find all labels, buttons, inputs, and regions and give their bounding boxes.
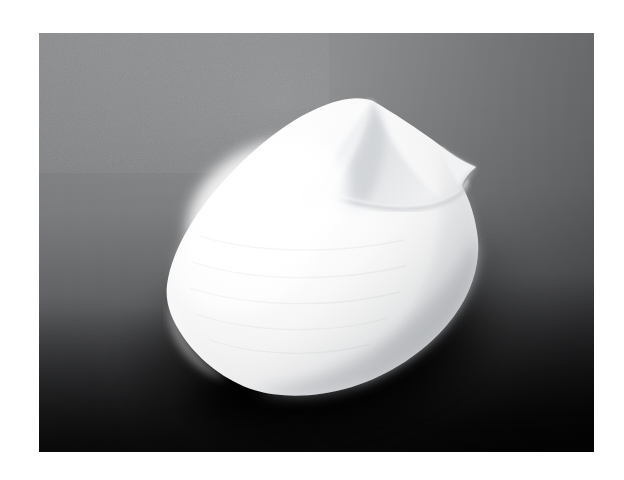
mat-border-bottom: [0, 452, 624, 480]
artwork-frame: A smooth white egg-like ceramic sculptur…: [0, 0, 624, 480]
ceramic-vessel-render: [39, 33, 594, 452]
mat-border-top: [0, 0, 624, 33]
mat-border-left: [0, 0, 39, 480]
mat-border-right: [594, 0, 624, 480]
ceramic-vessel: [39, 33, 594, 452]
photograph: [39, 33, 594, 452]
